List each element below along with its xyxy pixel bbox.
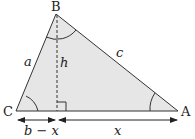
dimension-label-b-minus-x: b − x [24, 123, 59, 138]
vertex-label-a: A [180, 104, 191, 119]
side-label-a: a [24, 54, 32, 69]
triangle-diagram: B C A a h c b − x x [0, 0, 195, 139]
side-label-c: c [116, 45, 124, 60]
side-label-h: h [60, 55, 68, 70]
vertex-label-b: B [51, 0, 61, 14]
vertex-label-c: C [3, 104, 13, 119]
triangle-abc [16, 14, 178, 111]
dimension-label-x: x [114, 123, 122, 138]
